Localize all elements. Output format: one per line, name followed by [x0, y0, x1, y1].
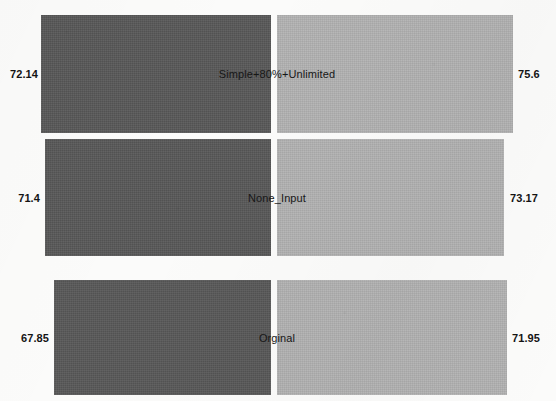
row-category-label: Simple+80%+Unlimited	[219, 68, 335, 80]
row-low-bar	[45, 139, 271, 256]
chart-canvas: 72.14 Simple+80%+Unlimited 75.6 71.4 Non…	[0, 0, 556, 401]
row-category-label: None_Input	[248, 192, 306, 204]
row-low-bar	[54, 280, 271, 395]
row-high-value-label: 73.17	[510, 192, 552, 204]
row-low-value-label: 71.4	[2, 192, 40, 204]
tornado-row: 72.14 Simple+80%+Unlimited 75.6	[0, 15, 556, 133]
row-low-value-label: 67.85	[4, 332, 49, 344]
tornado-row: 71.4 None_Input 73.17	[0, 139, 556, 256]
row-category-label: Orginal	[259, 332, 295, 344]
row-high-bar	[277, 280, 507, 395]
row-high-value-label: 75.6	[518, 68, 554, 80]
plot-area: 72.14 Simple+80%+Unlimited 75.6 71.4 Non…	[0, 0, 556, 401]
tornado-row: 67.85 Orginal 71.95	[0, 280, 556, 395]
row-high-value-label: 71.95	[512, 332, 554, 344]
row-low-value-label: 72.14	[2, 68, 38, 80]
row-high-bar	[277, 139, 504, 256]
